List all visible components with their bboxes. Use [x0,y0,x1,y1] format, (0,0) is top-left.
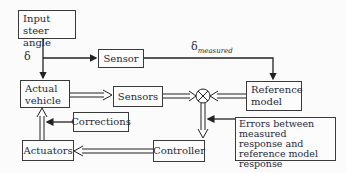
delta-measured-base: δ [191,40,198,53]
sensor-block: Sensor [98,49,144,68]
input-steer-angle-block: Input steer angle [18,10,76,39]
reference-model-label: Reference model [251,84,303,107]
actuators-label: Actuators [23,145,72,157]
reference-model-block: Reference model [246,81,302,111]
actual-vehicle-label: Actual vehicle [25,83,61,106]
corrections-block: Corrections [73,112,129,132]
sensors-label: Sensors [118,91,158,103]
actual-vehicle-block: Actual vehicle [20,80,70,108]
controller-block: Controller [153,140,205,162]
delta-measured-subscript: measured [198,47,233,55]
sensor-label: Sensor [103,53,138,65]
delta-label: δ [24,50,31,63]
input-steer-angle-label: Input steer angle [23,13,51,48]
corrections-label: Corrections [71,116,131,128]
delta-measured-label: δmeasured [191,40,233,55]
controller-label: Controller [153,145,205,157]
errors-block: Errors between measured response and ref… [235,117,336,161]
sensors-block: Sensors [113,86,163,107]
actuators-block: Actuators [22,140,74,161]
